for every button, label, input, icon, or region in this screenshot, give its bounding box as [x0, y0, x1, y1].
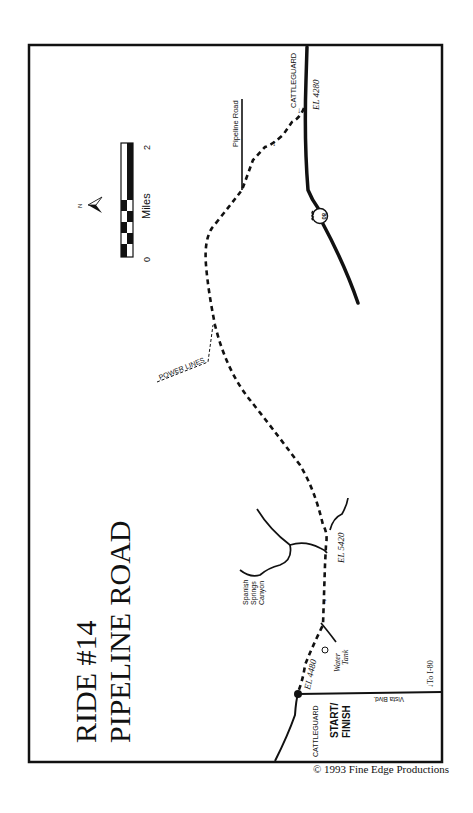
scale-max-label: 2	[142, 145, 152, 150]
canyon-stream	[240, 545, 291, 576]
water-tank-label: Tank	[341, 649, 350, 665]
direction-arrow-icon: ↕	[272, 139, 276, 148]
cattleguard-start-label: CATTLEGUARD	[312, 705, 319, 757]
water-tank-spur	[321, 623, 336, 642]
start-label: START/	[329, 702, 340, 738]
spanish-springs-label: Springs	[250, 581, 258, 605]
north-arrow-icon: N	[77, 197, 102, 213]
spanish-springs-arrow-icon: →	[243, 582, 250, 589]
elevation-mid-label: EL 5420	[336, 532, 346, 564]
svg-text:80: 80	[321, 213, 327, 220]
copyright-credit: © 1993 Fine Edge Productions	[313, 763, 449, 775]
ride-name-title: PIPELINE ROAD	[103, 521, 136, 744]
scale-bar: 0 2 Miles	[121, 143, 152, 262]
finish-label: FINISH	[341, 705, 352, 738]
svg-text:N: N	[77, 204, 83, 208]
start-finish-marker	[294, 690, 302, 698]
access-road	[275, 694, 298, 761]
spanish-springs-label: Canyon	[258, 581, 266, 605]
to-i80-label: ↓To I-80	[426, 660, 435, 688]
route-map: RIDE #14 PIPELINE ROAD 80 Pipeline Road …	[0, 0, 473, 813]
elevation-north-label: EL 4280	[311, 79, 321, 111]
power-lines-label: POWER LINES	[158, 356, 206, 381]
ride-number-title: RIDE #14	[69, 621, 102, 744]
canyon-stream	[257, 509, 327, 553]
water-tank-icon	[322, 647, 328, 653]
highway-shield-icon: 80	[312, 209, 328, 224]
vista-blvd-road	[298, 692, 442, 694]
trail-route	[206, 108, 327, 692]
direction-arrow-icon: ↑	[323, 597, 327, 606]
cattleguard-north-label: CATTLEGUARD	[289, 52, 298, 108]
scale-min-label: 0	[142, 257, 152, 262]
canyon-stream	[330, 498, 348, 530]
vista-blvd-label: Vista Blvd.	[373, 696, 404, 703]
pipeline-road-label: Pipeline Road	[231, 100, 240, 147]
scale-unit-label: Miles	[140, 193, 152, 219]
